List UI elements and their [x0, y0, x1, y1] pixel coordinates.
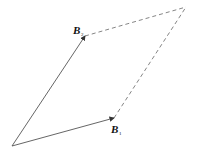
svg-text:B: B	[72, 24, 80, 36]
label-b2: B 2	[72, 24, 84, 37]
parallelogram-diagram: B 2 B 1	[0, 0, 197, 155]
dashed-side-right	[114, 7, 186, 118]
vector-b2-arrow	[12, 36, 85, 146]
svg-text:1: 1	[119, 131, 122, 136]
dashed-side-top	[85, 7, 186, 36]
label-b1: B 1	[110, 123, 122, 136]
svg-text:2: 2	[81, 32, 84, 37]
svg-text:B: B	[110, 123, 118, 135]
